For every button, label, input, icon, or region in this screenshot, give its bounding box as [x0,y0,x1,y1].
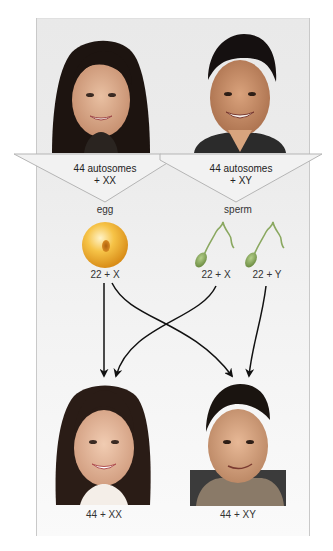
mother-label-line1: 44 autosomes [64,163,146,175]
daughter-portrait [56,386,151,506]
son-karyotype-label: 44 + XY [210,509,266,520]
arrow-x-sperm-to-daughter [116,286,216,376]
daughter-karyotype-label: 44 + XX [76,509,132,520]
mother-label-line2: + XX [64,175,146,187]
mother-karyotype-label: 44 autosomes + XX [64,163,146,187]
egg-cell-icon [82,222,128,268]
fertilization-arrows [104,283,266,376]
sperm-label: sperm [216,204,260,215]
father-karyotype-label: 44 autosomes + XY [200,163,282,187]
sperm-cell-icon [193,222,234,269]
father-label-line1: 44 autosomes [200,163,282,175]
father-label-line2: + XY [200,175,282,187]
sperm-y-chromosome-label: 22 + Y [245,269,289,280]
egg-label: egg [90,204,120,215]
mother-portrait [52,41,150,153]
sperm-x-chromosome-label: 22 + X [194,269,238,280]
egg-chromosome-label: 22 + X [83,269,127,280]
father-portrait [194,34,286,153]
son-portrait [190,384,286,506]
sperm-cell-icon [243,222,284,269]
arrow-y-sperm-to-son [249,286,266,376]
arrow-egg-to-son [112,283,232,376]
